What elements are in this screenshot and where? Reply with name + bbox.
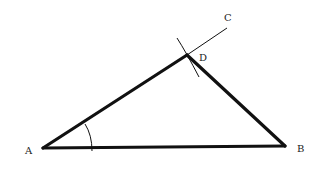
label-C: C xyxy=(224,12,232,23)
label-B: B xyxy=(297,143,304,154)
label-A: A xyxy=(24,145,33,156)
segment-DB xyxy=(187,55,285,146)
triangle-diagram: A B C D xyxy=(0,0,328,169)
segment-AB xyxy=(43,146,285,148)
label-D: D xyxy=(199,52,207,63)
segment-DC xyxy=(187,28,227,55)
segment-AD xyxy=(43,55,187,148)
